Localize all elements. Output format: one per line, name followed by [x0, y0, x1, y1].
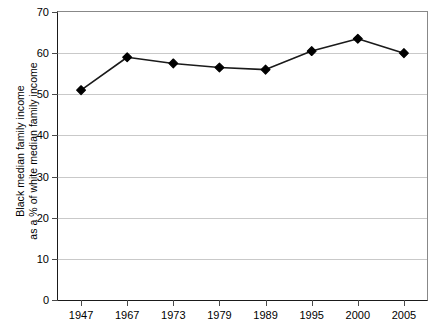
- y-axis-tick-label: 10: [37, 253, 49, 265]
- x-axis-tick: [404, 300, 405, 306]
- y-axis-tick-label: 0: [43, 294, 49, 306]
- x-axis-tick: [312, 300, 313, 306]
- x-axis-tick-label: 1979: [207, 309, 231, 321]
- data-point-marker: [215, 63, 224, 72]
- x-axis-tick-label: 2000: [346, 309, 370, 321]
- y-axis-tick-label: 40: [37, 129, 49, 141]
- x-axis-tick-label: 1947: [69, 309, 93, 321]
- y-axis-tick: [52, 300, 58, 301]
- y-axis-tick-label: 20: [37, 212, 49, 224]
- x-axis-tick: [173, 300, 174, 306]
- x-axis-tick: [127, 300, 128, 306]
- data-point-marker: [169, 59, 178, 68]
- data-series: [58, 12, 427, 300]
- x-axis-tick: [358, 300, 359, 306]
- x-axis-tick: [266, 300, 267, 306]
- data-point-marker: [400, 49, 409, 58]
- x-axis-tick-label: 1995: [299, 309, 323, 321]
- line-chart: Black median family income as a % of whi…: [0, 0, 438, 328]
- x-axis-tick-label: 1967: [115, 309, 139, 321]
- data-point-marker: [261, 65, 270, 74]
- x-axis-tick: [219, 300, 220, 306]
- data-point-marker: [353, 34, 362, 43]
- series-line: [81, 39, 404, 90]
- data-point-marker: [307, 47, 316, 56]
- y-axis-tick-label: 30: [37, 171, 49, 183]
- y-axis-tick-label: 70: [37, 6, 49, 18]
- y-axis-tick-label: 60: [37, 47, 49, 59]
- x-axis-tick-label: 2005: [392, 309, 416, 321]
- x-axis-tick-label: 1973: [161, 309, 185, 321]
- x-axis-tick-label: 1989: [253, 309, 277, 321]
- y-axis-tick-label: 50: [37, 88, 49, 100]
- y-axis-title-line-1: Black median family income: [14, 85, 27, 216]
- plot-area: 010203040506070 194719671973197919891995…: [57, 11, 428, 301]
- x-axis-tick: [81, 300, 82, 306]
